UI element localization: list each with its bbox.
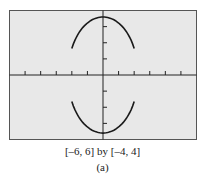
figure-label: (a) — [0, 161, 205, 173]
graph-screen — [0, 0, 205, 145]
window-caption: [–6, 6] by [–4, 4] — [0, 145, 205, 157]
